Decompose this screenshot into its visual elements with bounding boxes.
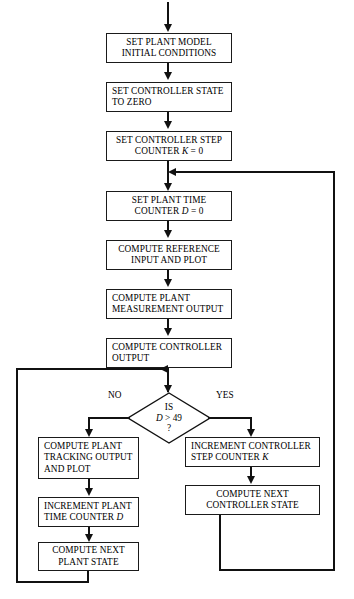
arrowhead-6-7	[164, 328, 172, 336]
node-increment-plant-time-counter[interactable]: INCREMENT PLANT TIME COUNTER D	[38, 497, 139, 527]
edge-label-no: NO	[108, 390, 121, 400]
connector-entry	[167, 2, 169, 26]
node-line: INCREMENT PLANT	[44, 501, 132, 512]
node-line: COMPUTE NEXT	[216, 489, 289, 500]
connector-plant-loop-vertical	[16, 368, 18, 583]
symbol-k: K	[182, 146, 188, 156]
node-compute-plant-measurement[interactable]: COMPUTE PLANT MEASUREMENT OUTPUT	[106, 289, 232, 319]
node-line: INPUT AND PLOT	[131, 255, 207, 266]
arrowhead-entry	[164, 24, 172, 32]
connector-no-horizontal	[88, 417, 130, 419]
node-line: COMPUTE PLANT	[112, 293, 190, 304]
arrowhead-1-2	[164, 72, 172, 80]
symbol-d: D	[182, 206, 189, 216]
node-increment-controller-step-counter[interactable]: INCREMENT CONTROLLER STEP COUNTER K	[185, 437, 320, 467]
node-line: INCREMENT CONTROLLER	[191, 441, 311, 452]
connector-controller-loop-riser	[219, 528, 221, 571]
node-line: MEASUREMENT OUTPUT	[112, 304, 223, 315]
connector-13-loop	[219, 515, 221, 531]
arrowhead-5-6	[164, 279, 172, 287]
node-compute-next-controller-state[interactable]: COMPUTE NEXT CONTROLLER STATE	[185, 485, 320, 515]
node-line: SET CONTROLLER STEP	[116, 135, 222, 146]
node-line: COMPUTE PLANT	[44, 441, 122, 452]
symbol-d: D	[117, 512, 124, 522]
node-line: SET PLANT MODEL	[126, 37, 211, 48]
edge-label-yes: YES	[216, 390, 234, 400]
node-line: CONTROLLER STATE	[206, 500, 299, 511]
node-line-symbolic: STEP COUNTER K	[191, 452, 269, 463]
arrowhead-9-10	[85, 488, 93, 496]
arrowhead-plant-loop	[160, 365, 168, 373]
node-set-plant-time-counter[interactable]: SET PLANT TIME COUNTER D = 0	[106, 191, 232, 221]
arrowhead-10-11	[85, 534, 93, 542]
node-line-symbolic: TIME COUNTER D	[44, 512, 123, 523]
node-line: PLANT STATE	[58, 557, 118, 568]
node-line: INITIAL CONDITIONS	[122, 48, 217, 59]
node-line: COMPUTE CONTROLLER	[112, 342, 222, 353]
node-line-symbolic: COUNTER D = 0	[135, 206, 204, 217]
connector-plant-loop-horizontal-bottom	[16, 581, 89, 583]
connector-plant-loop-riser	[87, 571, 89, 583]
arrowhead-2-3	[164, 121, 172, 129]
node-line: COMPUTE NEXT	[52, 545, 125, 556]
arrowhead-controller-loop	[168, 168, 176, 176]
node-line: COMPUTE REFERENCE	[118, 244, 220, 255]
connector-plant-loop-horizontal-top	[16, 368, 168, 370]
arrowhead-no	[85, 429, 93, 437]
node-compute-next-plant-state[interactable]: COMPUTE NEXT PLANT STATE	[38, 542, 139, 571]
node-line-symbolic: COUNTER K = 0	[135, 146, 203, 157]
node-set-controller-state[interactable]: SET CONTROLLER STATE TO ZERO	[106, 82, 232, 112]
arrowhead-12-13	[247, 476, 255, 484]
connector-yes-horizontal	[208, 417, 252, 419]
node-set-plant-model[interactable]: SET PLANT MODEL INITIAL CONDITIONS	[106, 33, 232, 63]
flowchart-canvas: SET PLANT MODEL INITIAL CONDITIONS SET C…	[0, 0, 354, 599]
node-compute-plant-tracking[interactable]: COMPUTE PLANT TRACKING OUTPUT AND PLOT	[38, 437, 139, 479]
arrowhead-3-4	[164, 183, 172, 191]
node-line: OUTPUT	[112, 353, 149, 364]
node-line: AND PLOT	[44, 464, 91, 475]
node-line: SET PLANT TIME	[132, 195, 207, 206]
arrowhead-4-5	[164, 230, 172, 238]
arrowhead-yes	[247, 429, 255, 437]
connector-controller-loop-vertical	[333, 171, 335, 571]
symbol-k: K	[262, 452, 268, 462]
node-line: SET CONTROLLER STATE	[112, 86, 224, 97]
node-line: TO ZERO	[112, 97, 152, 108]
connector-controller-loop-horizontal-top	[176, 171, 335, 173]
node-compute-controller-output[interactable]: COMPUTE CONTROLLER OUTPUT	[106, 338, 232, 368]
node-set-controller-step-counter[interactable]: SET CONTROLLER STEP COUNTER K = 0	[106, 131, 232, 161]
node-line: TRACKING OUTPUT	[44, 452, 133, 463]
node-compute-reference-input[interactable]: COMPUTE REFERENCE INPUT AND PLOT	[106, 240, 232, 270]
connector-controller-loop-horizontal-bottom	[219, 569, 335, 571]
